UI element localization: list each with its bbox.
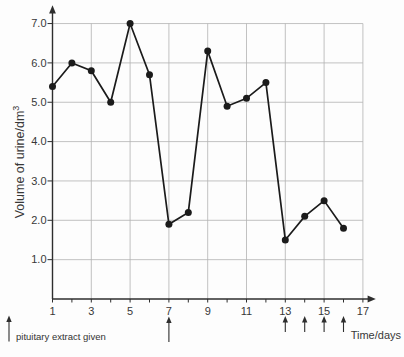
extract-legend-label: pituitary extract given [16,331,106,342]
extract-legend: pituitary extract given [4,314,106,342]
x-tick-label: 9 [205,305,211,317]
extract-arrow-head [341,316,346,323]
chart-canvas: 13579111315171.02.03.04.05.06.07.0 [0,0,404,357]
data-point [282,236,289,243]
x-tick-label: 13 [279,305,291,317]
data-line [53,24,344,240]
extract-arrow-head [166,317,171,324]
data-point [224,103,231,110]
data-point [340,225,347,232]
data-point [127,20,134,27]
x-tick-label: 5 [127,305,133,317]
y-tick-label: 4.0 [31,135,46,147]
data-point [107,99,114,106]
y-tick-label: 7.0 [31,17,46,29]
y-tick-label: 2.0 [31,214,46,226]
x-tick-label: 7 [166,305,172,317]
data-point [88,67,95,74]
data-point [185,209,192,216]
data-point [146,71,153,78]
y-axis-title-superscript: 3 [11,106,21,111]
x-axis-arrowhead [368,296,376,303]
y-axis-title-text: Volume of urine/dm [13,111,27,219]
arrow-up-icon [4,315,14,342]
data-point [204,48,211,55]
data-point [243,95,250,102]
y-tick-label: 6.0 [31,57,46,69]
x-tick-label: 11 [241,305,252,317]
urine-volume-figure: 13579111315171.02.03.04.05.06.07.0 Volum… [0,0,404,357]
data-point [165,221,172,228]
extract-arrow-head [302,316,307,323]
y-tick-label: 5.0 [31,96,46,108]
data-point [262,79,269,86]
data-point [321,197,328,204]
y-axis-arrowhead [49,5,56,13]
x-tick-label: 15 [318,305,330,317]
y-axis-title: Volume of urine/dm3 [11,106,27,219]
x-tick-label: 17 [357,305,369,317]
y-tick-label: 1.0 [31,253,46,265]
data-point [301,213,308,220]
data-point [68,59,75,66]
data-point [49,83,56,90]
y-tick-label: 3.0 [31,175,46,187]
